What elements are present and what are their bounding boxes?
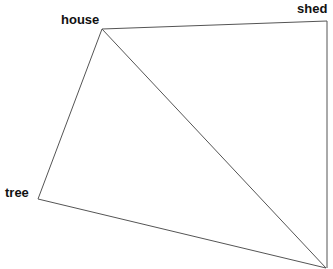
edge-house-corner [102,29,326,268]
edge-tree-corner [38,199,326,268]
label-shed: shed [297,1,327,16]
label-house: house [61,12,99,27]
labels: house shed tree [5,1,327,200]
label-tree: tree [5,185,29,200]
diagram-canvas: house shed tree [0,0,333,269]
edge-house-tree [38,29,102,199]
edge-house-shed [102,21,327,29]
edges [38,21,327,268]
